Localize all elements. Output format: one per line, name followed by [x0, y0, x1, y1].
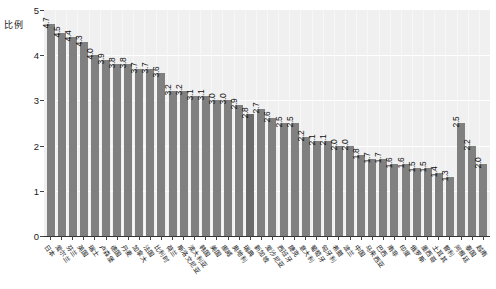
bar[interactable]: 1.7 — [379, 159, 387, 236]
bar-item[interactable]: 1.6 — [400, 10, 411, 236]
bar[interactable]: 3.6 — [157, 73, 165, 236]
x-tick — [444, 236, 455, 240]
y-tick-label: 1 — [34, 185, 39, 196]
x-tick — [56, 236, 67, 240]
bar-value-label: 2.5 — [285, 116, 295, 127]
bar-value-label: 2.2 — [296, 130, 306, 141]
bar-item[interactable]: 1.6 — [389, 10, 400, 236]
bar[interactable]: 1.3 — [446, 177, 454, 236]
bar[interactable]: 3.8 — [113, 64, 121, 236]
bar[interactable]: 1.6 — [402, 164, 410, 236]
bar[interactable]: 4.0 — [91, 55, 99, 236]
bar[interactable]: 3.9 — [102, 60, 110, 236]
bar-item[interactable]: 1.7 — [367, 10, 378, 236]
bar-item[interactable]: 2.9 — [234, 10, 245, 236]
bar-item[interactable]: 1.8 — [356, 10, 367, 236]
bar[interactable]: 4.3 — [80, 42, 88, 236]
x-tick — [256, 236, 267, 240]
bar-item[interactable]: 2.2 — [467, 10, 478, 236]
bar-value-label: 2.1 — [318, 134, 328, 145]
bar[interactable]: 3.2 — [169, 91, 177, 236]
bar-value-label: 1.8 — [351, 148, 361, 159]
bar[interactable]: 2.2 — [302, 137, 310, 236]
bar[interactable]: 1.5 — [413, 168, 421, 236]
bar-item[interactable]: 2.5 — [289, 10, 300, 236]
bar-item[interactable]: 2.1 — [322, 10, 333, 236]
bar-item[interactable]: 3.7 — [134, 10, 145, 236]
bar[interactable]: 3.1 — [191, 96, 199, 236]
bar-item[interactable]: 2.7 — [256, 10, 267, 236]
bar[interactable]: 3.2 — [180, 91, 188, 236]
bar[interactable]: 2.7 — [257, 109, 265, 236]
bar-value-label: 1.4 — [429, 166, 439, 177]
bar[interactable]: 1.7 — [368, 159, 376, 236]
bar-value-label: 3.2 — [174, 85, 184, 96]
bar[interactable]: 2.9 — [235, 105, 243, 236]
bar-item[interactable]: 3.0 — [223, 10, 234, 236]
bar-item[interactable]: 2.0 — [333, 10, 344, 236]
bar[interactable]: 4.5 — [58, 33, 66, 236]
bar-item[interactable]: 4.7 — [45, 10, 56, 236]
bar-item[interactable]: 2.5 — [455, 10, 466, 236]
bar-item[interactable]: 3.2 — [167, 10, 178, 236]
bar[interactable]: 3.7 — [135, 69, 143, 236]
bar[interactable]: 1.8 — [357, 155, 365, 236]
bar-value-label: 2.0 — [329, 139, 339, 150]
bar-item[interactable]: 3.7 — [145, 10, 156, 236]
bar[interactable]: 3.1 — [202, 96, 210, 236]
bar-item[interactable]: 1.5 — [422, 10, 433, 236]
bar-item[interactable]: 2.0 — [478, 10, 489, 236]
bar[interactable]: 3.0 — [213, 100, 221, 236]
x-tick — [433, 236, 444, 240]
bar[interactable]: 1.5 — [424, 168, 432, 236]
bar-item[interactable]: 1.4 — [433, 10, 444, 236]
bar-value-label: 2.1 — [307, 134, 317, 145]
bar[interactable]: 4.7 — [47, 24, 55, 236]
bar[interactable]: 2.6 — [268, 118, 276, 236]
x-tick — [100, 236, 111, 240]
bar-item[interactable]: 2.2 — [300, 10, 311, 236]
bar-value-label: 1.6 — [384, 157, 394, 168]
y-tick-label: 4 — [34, 50, 39, 61]
bar-value-label: 2.9 — [229, 98, 239, 109]
bar-item[interactable]: 3.2 — [178, 10, 189, 236]
bar-item[interactable]: 2.8 — [245, 10, 256, 236]
bar[interactable]: 2.8 — [246, 114, 254, 236]
bar-item[interactable]: 4.0 — [89, 10, 100, 236]
bar[interactable]: 3.0 — [224, 100, 232, 236]
bar[interactable]: 2.5 — [280, 123, 288, 236]
x-tick — [278, 236, 289, 240]
bar-item[interactable]: 3.8 — [123, 10, 134, 236]
bar-item[interactable]: 3.6 — [156, 10, 167, 236]
bar-item[interactable]: 2.1 — [311, 10, 322, 236]
bar-value-label: 1.6 — [396, 157, 406, 168]
bar[interactable]: 2.1 — [313, 141, 321, 236]
bar-item[interactable]: 4.5 — [56, 10, 67, 236]
x-tick — [145, 236, 156, 240]
bar[interactable]: 1.6 — [390, 164, 398, 236]
x-tick — [289, 236, 300, 240]
bar[interactable]: 3.7 — [146, 69, 154, 236]
bar[interactable]: 1.4 — [435, 173, 443, 236]
bar[interactable]: 4.4 — [69, 37, 77, 236]
bar[interactable]: 2.0 — [479, 164, 487, 236]
x-tick — [156, 236, 167, 240]
bar-item[interactable]: 3.1 — [200, 10, 211, 236]
bar-value-label: 3.7 — [129, 62, 139, 73]
bar-item[interactable]: 1.5 — [411, 10, 422, 236]
bar[interactable]: 2.1 — [324, 141, 332, 236]
bar-item[interactable]: 1.7 — [378, 10, 389, 236]
x-tick — [267, 236, 278, 240]
bar-item[interactable]: 2.0 — [345, 10, 356, 236]
bar-item[interactable]: 4.3 — [78, 10, 89, 236]
bar-value-label: 1.5 — [407, 162, 417, 173]
bar-item[interactable]: 3.9 — [100, 10, 111, 236]
bar-value-label: 3.0 — [207, 94, 217, 105]
bar[interactable]: 3.8 — [124, 64, 132, 236]
bar-value-label: 3.1 — [185, 89, 195, 100]
bar-item[interactable]: 3.1 — [189, 10, 200, 236]
x-tick — [311, 236, 322, 240]
bar[interactable]: 2.0 — [335, 146, 343, 236]
bar-item[interactable]: 3.8 — [112, 10, 123, 236]
bar-item[interactable]: 3.0 — [211, 10, 222, 236]
